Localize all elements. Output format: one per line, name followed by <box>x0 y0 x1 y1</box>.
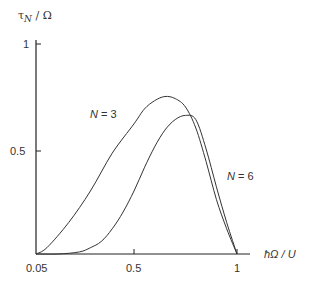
annotation-n3: N = 3 <box>90 108 117 120</box>
x-tick-label-05: 0.5 <box>126 262 141 274</box>
x-tick-label-1: 1 <box>234 262 240 274</box>
series-n3-line <box>36 96 237 254</box>
x-tick-label-005: 0.05 <box>26 262 47 274</box>
y-tick-label-05: 0.5 <box>10 145 25 157</box>
annotation-n6: N = 6 <box>227 170 254 182</box>
chart: 1 0.5 0.05 0.5 1 τN / Ω ħΩ / U N = 3 N =… <box>0 0 313 282</box>
x-axis-title: ħΩ / U <box>264 248 296 260</box>
y-tick-label-1: 1 <box>23 38 29 50</box>
series-n6-line <box>36 115 237 254</box>
y-axis-title: τN / Ω <box>18 9 52 24</box>
